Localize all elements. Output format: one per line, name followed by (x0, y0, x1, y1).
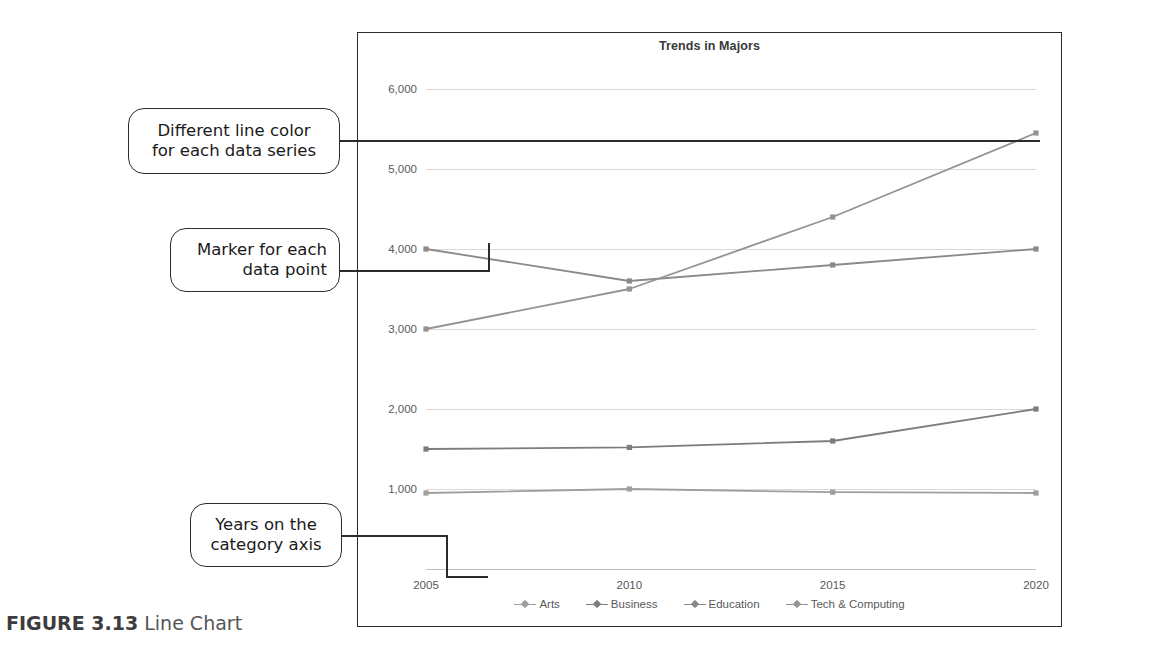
data-point-marker (1033, 406, 1038, 411)
plot-area: 1,0002,0003,0004,0005,0006,000 200520102… (426, 89, 1036, 569)
leader-line-color (340, 140, 1040, 142)
leader-years-horizontal (342, 535, 448, 537)
legend-swatch-icon (684, 600, 706, 609)
callout-marker-line1: Marker for each (183, 240, 327, 260)
series-line-arts (426, 489, 1036, 493)
x-axis-tick-label: 2020 (1023, 579, 1049, 591)
data-point-marker (627, 445, 632, 450)
legend-label: Arts (539, 598, 559, 610)
callout-line-color-line1: Different line color (141, 121, 327, 141)
data-point-marker (830, 214, 835, 219)
y-axis-tick-label: 4,000 (388, 243, 417, 255)
legend-swatch-icon (514, 600, 536, 609)
data-point-marker (830, 438, 835, 443)
data-point-marker (423, 326, 428, 331)
data-point-marker (830, 490, 835, 495)
data-point-marker (423, 446, 428, 451)
series-line-business (426, 409, 1036, 449)
y-axis-tick-label: 6,000 (388, 83, 417, 95)
leader-years-tail (446, 576, 488, 578)
leader-years-vertical (446, 535, 448, 577)
legend-item-tech-computing[interactable]: Tech & Computing (786, 598, 905, 610)
y-axis-tick-label: 5,000 (388, 163, 417, 175)
x-axis-line (426, 569, 1036, 570)
callout-line-color-line2: for each data series (141, 141, 327, 161)
x-axis-tick-label: 2005 (413, 579, 439, 591)
legend-item-business[interactable]: Business (586, 598, 658, 610)
callout-years-line1: Years on the (203, 515, 329, 535)
figure-caption-label: FIGURE 3.13 (6, 612, 138, 634)
leader-marker-horizontal (340, 270, 490, 272)
legend-label: Tech & Computing (811, 598, 905, 610)
data-point-marker (627, 286, 632, 291)
y-axis-tick-label: 3,000 (388, 323, 417, 335)
data-point-marker (1033, 246, 1038, 251)
callout-marker: Marker for each data point (170, 228, 340, 292)
data-point-marker (627, 278, 632, 283)
data-point-marker (1033, 130, 1038, 135)
figure-caption: FIGURE 3.13 Line Chart (6, 612, 242, 634)
legend-item-education[interactable]: Education (684, 598, 760, 610)
legend-item-arts[interactable]: Arts (514, 598, 559, 610)
callout-marker-line2: data point (183, 260, 327, 280)
callout-years-line2: category axis (203, 535, 329, 555)
chart-legend: ArtsBusinessEducationTech & Computing (358, 598, 1061, 610)
data-point-marker (1033, 490, 1038, 495)
y-axis-tick-label: 2,000 (388, 403, 417, 415)
chart-container: Trends in Majors 1,0002,0003,0004,0005,0… (357, 32, 1062, 627)
callout-line-color: Different line color for each data serie… (128, 108, 340, 174)
x-axis-tick-label: 2010 (617, 579, 643, 591)
legend-label: Business (611, 598, 658, 610)
series-line-tech-computing (426, 133, 1036, 329)
x-axis-tick-label: 2015 (820, 579, 846, 591)
data-point-marker (627, 486, 632, 491)
legend-swatch-icon (586, 600, 608, 609)
figure-caption-text: Line Chart (144, 612, 242, 634)
callout-years: Years on the category axis (190, 503, 342, 567)
y-axis-tick-label: 1,000 (388, 483, 417, 495)
legend-swatch-icon (786, 600, 808, 609)
leader-marker-vertical (488, 243, 490, 271)
data-point-marker (423, 490, 428, 495)
data-point-marker (830, 262, 835, 267)
chart-title: Trends in Majors (358, 39, 1061, 53)
data-point-marker (423, 246, 428, 251)
data-series-layer (426, 89, 1036, 569)
legend-label: Education (709, 598, 760, 610)
